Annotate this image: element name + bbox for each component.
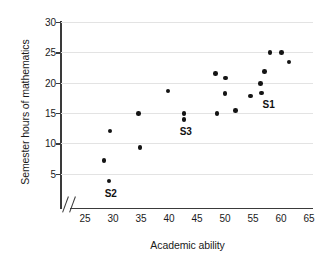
x-tick-label: 30 xyxy=(98,213,128,224)
gridline xyxy=(61,52,313,53)
x-tick-label: 55 xyxy=(238,213,268,224)
y-tick-mark xyxy=(56,174,61,175)
y-tick-mark xyxy=(56,83,61,84)
data-point xyxy=(136,111,141,116)
scatter-chart: Semester hours of mathematics 5101520253… xyxy=(0,0,330,266)
data-point xyxy=(259,91,264,96)
x-tick-label: 45 xyxy=(182,213,212,224)
data-point xyxy=(102,158,107,163)
x-tick-label: 60 xyxy=(266,213,296,224)
y-tick-mark xyxy=(56,22,61,23)
y-tick-mark xyxy=(56,143,61,144)
gridline xyxy=(61,143,313,144)
gridline xyxy=(61,22,313,23)
data-point xyxy=(138,145,143,150)
y-tick-label: 15 xyxy=(30,108,56,119)
data-point xyxy=(213,71,218,76)
x-axis-title: Academic ability xyxy=(60,239,315,251)
y-tick-mark xyxy=(56,113,61,114)
point-annotation-s2: S2 xyxy=(105,188,117,199)
gridline xyxy=(61,83,313,84)
x-tick-label: 65 xyxy=(294,213,324,224)
y-tick-label: 25 xyxy=(30,47,56,58)
data-point xyxy=(268,50,273,55)
data-point xyxy=(279,50,284,55)
point-annotation-s1: S1 xyxy=(263,99,275,110)
gridline xyxy=(61,113,313,114)
data-point xyxy=(223,76,228,81)
x-tick-label: 50 xyxy=(210,213,240,224)
data-point xyxy=(258,81,263,86)
data-point xyxy=(233,108,238,113)
y-tick-mark xyxy=(56,52,61,53)
y-tick-label: 20 xyxy=(30,77,56,88)
y-tick-label: 5 xyxy=(30,168,56,179)
x-tick-label: 35 xyxy=(126,213,156,224)
y-tick-label: 10 xyxy=(30,138,56,149)
plot-area xyxy=(61,22,313,204)
data-point xyxy=(223,91,228,96)
x-tick-label: 40 xyxy=(154,213,184,224)
y-tick-label: 30 xyxy=(30,17,56,28)
x-tick-label: 25 xyxy=(70,213,100,224)
gridline xyxy=(61,174,313,175)
x-axis-tick-labels: 253035404550556065 xyxy=(0,213,330,229)
x-axis-line xyxy=(70,208,313,209)
point-annotation-s3: S3 xyxy=(180,126,192,137)
